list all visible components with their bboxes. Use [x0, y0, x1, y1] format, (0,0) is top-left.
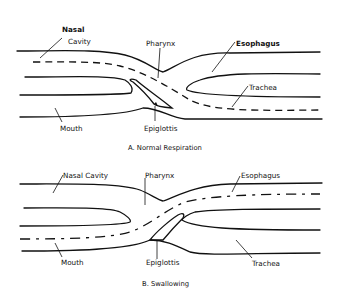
- label-trachea: Trachea: [251, 259, 280, 268]
- nasal-cavity-top-wall: [20, 183, 322, 201]
- esophagus-leader: [212, 42, 235, 72]
- palate-line: [20, 77, 132, 95]
- label-epiglottis: Epiglottis: [146, 258, 180, 267]
- label-nasal: Nasal: [62, 25, 84, 34]
- anatomy-diagram: Nasal Cavity Pharynx Esophagus Trachea M…: [0, 0, 337, 290]
- label-mouth: Mouth: [61, 258, 84, 267]
- epiglottis-shape: [130, 79, 172, 108]
- label-pharynx: Pharynx: [146, 39, 176, 48]
- panel-a-normal-respiration: Nasal Cavity Pharynx Esophagus Trachea M…: [17, 25, 322, 152]
- trachea-leader: [236, 240, 252, 258]
- label-cavity: Cavity: [68, 37, 91, 46]
- caption-b: B. Swallowing: [142, 280, 189, 288]
- label-trachea: Trachea: [248, 83, 277, 92]
- label-nasal-cavity: Nasal Cavity: [63, 171, 109, 180]
- epiglottis-shape: [150, 214, 184, 240]
- esophagus-trachea-divider: [182, 209, 320, 230]
- label-pharynx: Pharynx: [145, 171, 175, 180]
- nasal-cavity-leader: [40, 38, 62, 58]
- label-esophagus: Esophagus: [241, 171, 280, 180]
- panel-b-swallowing: Nasal Cavity Pharynx Esophagus Trachea M…: [20, 171, 322, 288]
- label-epiglottis: Epiglottis: [144, 124, 178, 133]
- palate-line: [20, 208, 130, 226]
- label-mouth: Mouth: [60, 124, 83, 133]
- label-esophagus: Esophagus: [236, 39, 280, 48]
- mouth-bottom-wall: [22, 240, 320, 254]
- caption-a: A. Normal Respiration: [128, 144, 202, 152]
- mouth-leader: [55, 108, 62, 122]
- pharynx-leader: [158, 48, 160, 78]
